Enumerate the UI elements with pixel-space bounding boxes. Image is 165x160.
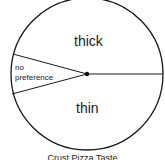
slice-label-thin: thin (76, 100, 99, 116)
chart-title: Crust Pizza Taste (0, 153, 165, 160)
slice-label-no-preference-line2: preference (15, 73, 53, 83)
slice-label-thick: thick (74, 33, 103, 49)
slice-label-no-preference-line1: no (15, 63, 24, 73)
center-dot (85, 72, 89, 76)
